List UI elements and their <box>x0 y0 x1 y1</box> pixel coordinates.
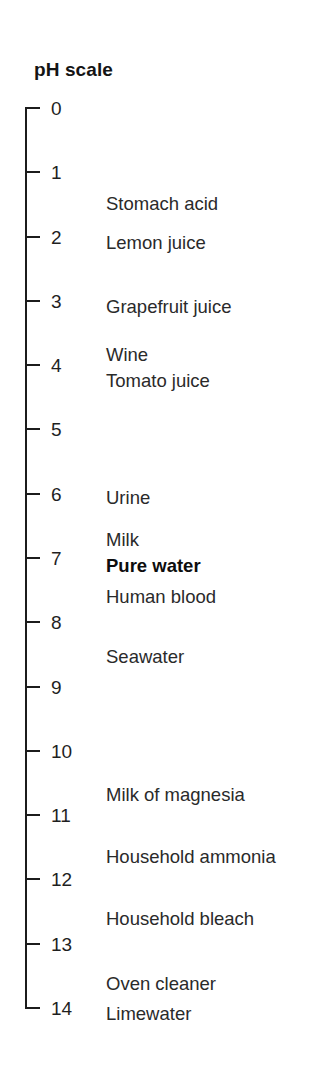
substance-label: Stomach acid <box>106 195 218 214</box>
substance-label: Grapefruit juice <box>106 298 231 317</box>
ph-tick-label: 9 <box>51 677 62 696</box>
ph-scale-figure: pH scale 01234567891011121314 Stomach ac… <box>0 0 310 1073</box>
ph-tick-mark <box>25 878 40 880</box>
ph-tick-label: 6 <box>51 484 62 503</box>
substance-label: Household bleach <box>106 910 254 929</box>
ph-tick-label: 10 <box>51 741 72 760</box>
ph-tick-label: 14 <box>51 998 72 1017</box>
ph-tick-mark <box>25 428 40 430</box>
ph-tick-mark <box>25 236 40 238</box>
ph-tick-mark <box>25 750 40 752</box>
ph-tick-label: 7 <box>51 548 62 567</box>
ph-tick-mark <box>25 300 40 302</box>
substance-label: Lemon juice <box>106 234 206 253</box>
ph-tick-mark <box>25 493 40 495</box>
substance-label: Pure water <box>106 556 201 575</box>
ph-tick-mark <box>25 107 40 109</box>
ph-tick-mark <box>25 557 40 559</box>
ph-tick-label: 2 <box>51 227 62 246</box>
substance-label: Wine <box>106 346 148 365</box>
ph-tick-label: 5 <box>51 420 62 439</box>
substance-label: Milk of magnesia <box>106 785 245 804</box>
ph-tick-label: 0 <box>51 99 62 118</box>
ph-tick-label: 11 <box>51 806 71 825</box>
substance-label: Milk <box>106 531 139 550</box>
ph-tick-mark <box>25 621 40 623</box>
substance-label: Human blood <box>106 587 216 606</box>
ph-tick-label: 12 <box>51 870 72 889</box>
ph-tick-label: 4 <box>51 356 62 375</box>
ph-tick-label: 8 <box>51 613 62 632</box>
ph-tick-label: 3 <box>51 291 62 310</box>
ph-tick-mark <box>25 1007 40 1009</box>
ph-tick-mark <box>25 171 40 173</box>
ph-tick-mark <box>25 364 40 366</box>
substance-label: Urine <box>106 488 150 507</box>
ph-tick-mark <box>25 814 40 816</box>
substance-label: Tomato juice <box>106 371 210 390</box>
substance-label: Oven cleaner <box>106 975 216 994</box>
substance-label: Seawater <box>106 648 184 667</box>
ph-tick-mark <box>25 943 40 945</box>
substance-label: Household ammonia <box>106 848 276 867</box>
substance-label: Limewater <box>106 1005 191 1024</box>
ph-tick-label: 1 <box>51 163 62 182</box>
ph-tick-mark <box>25 686 40 688</box>
ph-tick-label: 13 <box>51 934 72 953</box>
page-title: pH scale <box>34 59 113 81</box>
